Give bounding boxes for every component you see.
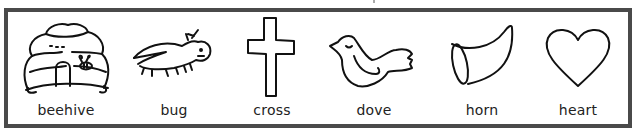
item-bug: bug bbox=[124, 12, 224, 124]
item-label: bug bbox=[124, 102, 224, 118]
heart-icon bbox=[532, 16, 624, 98]
item-beehive: beehive bbox=[16, 12, 116, 124]
item-dove: dove bbox=[324, 12, 424, 124]
picture-word-strip: beehive bug cross bbox=[4, 8, 632, 128]
beehive-icon bbox=[16, 16, 116, 98]
bug-icon bbox=[124, 16, 224, 98]
cross-icon bbox=[232, 14, 312, 100]
dove-icon bbox=[324, 16, 424, 98]
item-label: horn bbox=[432, 102, 532, 118]
item-label: cross bbox=[232, 102, 312, 118]
item-heart: heart bbox=[532, 12, 624, 124]
stray-mark bbox=[373, 0, 375, 3]
horn-icon bbox=[432, 16, 532, 98]
item-label: beehive bbox=[16, 102, 116, 118]
item-label: dove bbox=[324, 102, 424, 118]
item-horn: horn bbox=[432, 12, 532, 124]
item-label: heart bbox=[532, 102, 624, 118]
item-cross: cross bbox=[232, 12, 312, 124]
